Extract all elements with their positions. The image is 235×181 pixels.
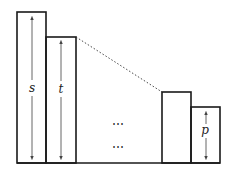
ellipsis-lower: ⋯ [112,140,125,154]
bar-unlabeled [162,92,191,163]
label-s: s [29,81,35,95]
ellipsis-upper: ⋯ [112,117,125,131]
diagram-canvas: s t ⋯ ⋯ p [0,0,235,181]
dotted-connector [76,37,162,92]
label-t: t [59,82,64,96]
label-p: p [201,123,209,137]
